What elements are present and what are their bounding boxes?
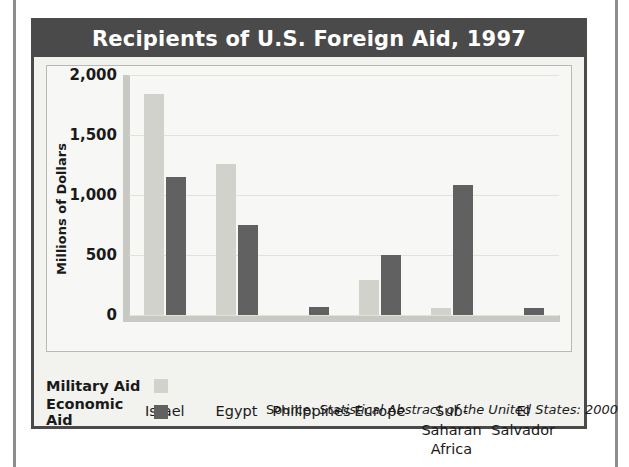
bar-economic	[309, 307, 329, 315]
page-rule-left	[13, 0, 16, 467]
legend-label-economic: Economic Aid	[46, 396, 154, 428]
y-axis-tick-label: 1,500	[70, 126, 117, 144]
chart-title-bar: Recipients of U.S. Foreign Aid, 1997	[34, 21, 584, 57]
plot-frame: Millions of Dollars 05001,0001,5002,000 …	[46, 65, 572, 352]
gridline	[129, 315, 559, 316]
chart-source: Source: Statistical Abstract of the Unit…	[266, 402, 618, 417]
chart-figure: Recipients of U.S. Foreign Aid, 1997 Mil…	[31, 18, 587, 429]
page-root: Recipients of U.S. Foreign Aid, 1997 Mil…	[0, 0, 629, 467]
plot-area: 05001,0001,5002,000	[129, 75, 559, 315]
legend-swatch-economic-icon	[154, 405, 168, 419]
legend-label-military: Military Aid	[46, 378, 154, 394]
legend-swatch-military-icon	[154, 379, 168, 393]
y-axis-tick-label: 1,000	[70, 186, 117, 204]
bar-economic	[524, 308, 544, 315]
page-title: Recipients of U.S. Foreign Aid, 1997	[92, 27, 526, 51]
bar-economic	[453, 185, 473, 315]
y-axis-tick-label: 0	[107, 306, 117, 324]
y-axis-tick-label: 2,000	[70, 66, 117, 84]
bar-military	[216, 164, 236, 315]
source-title: Statistical Abstract of the United State…	[319, 402, 618, 417]
bar-military	[144, 94, 164, 315]
bar-economic	[381, 255, 401, 315]
x-axis-band	[123, 315, 560, 322]
gridline	[129, 75, 559, 76]
gridline	[129, 135, 559, 136]
gridline	[129, 255, 559, 256]
x-axis-tick-label-line: Africa	[416, 440, 488, 459]
bar-economic	[166, 177, 186, 315]
chart-legend: Military Aid Economic Aid	[46, 373, 572, 425]
bar-military	[431, 308, 451, 315]
bar-economic	[238, 225, 258, 315]
y-axis-label: Millions of Dollars	[54, 143, 69, 275]
bar-military	[359, 280, 379, 315]
y-axis-tick-label: 500	[86, 246, 117, 264]
source-prefix: Source:	[266, 402, 319, 417]
page-rule-right	[615, 0, 618, 467]
gridline	[129, 195, 559, 196]
